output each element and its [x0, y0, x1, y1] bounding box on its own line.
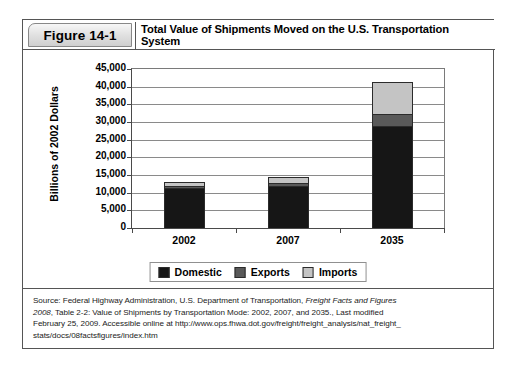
y-axis-title: Billions of 2002 Dollars [48, 69, 60, 219]
x-axis-label-2002: 2002 [149, 234, 219, 246]
legend-label-exports: Exports [251, 266, 290, 278]
figure-title: Total Value of Shipments Moved on the U.… [141, 23, 491, 47]
legend-label-domestic: Domestic [175, 266, 222, 278]
header-divider [135, 22, 136, 49]
bar-segment-domestic [268, 186, 309, 228]
legend-swatch-exports [235, 267, 246, 278]
bar-2007 [268, 177, 309, 228]
plot-area: 45,00040,00035,00030,00025,00020,00015,0… [131, 68, 445, 229]
source-line3: February 25, 2009. Accessible online at … [33, 319, 401, 328]
bar-segment-domestic [372, 126, 413, 228]
source-line1-prefix: Source: Federal Highway Administration, … [33, 296, 305, 305]
x-axis-label-2035: 2035 [357, 234, 427, 246]
legend-label-imports: Imports [319, 266, 358, 278]
y-axis-tick-label: 40,000 [72, 80, 132, 91]
legend-item-domestic[interactable]: Domestic [159, 266, 222, 278]
source-note-text: Source: Federal Highway Administration, … [33, 295, 483, 341]
figure-number-tag: Figure 14-1 [28, 23, 132, 47]
y-axis-tick-label: 10,000 [72, 186, 132, 197]
y-axis-tick-label: 35,000 [72, 97, 132, 108]
x-axis-tick [132, 228, 133, 233]
x-axis-tick [340, 228, 341, 233]
figure-header: Figure 14-1 Total Value of Shipments Mov… [23, 20, 495, 50]
chart-area: Billions of 2002 Dollars 45,00040,00035,… [23, 50, 493, 290]
figure-title-label: Total Value of Shipments Moved on the U.… [141, 23, 491, 47]
bar-segment-domestic [164, 188, 205, 228]
source-line4: stats/docs/08factsfigures/index.htm [33, 331, 158, 340]
y-axis-tick-label: 45,000 [72, 62, 132, 73]
bar-segment-imports [372, 82, 413, 114]
bar-2035 [372, 82, 413, 228]
chart-legend: DomesticExportsImports [150, 262, 367, 282]
bar-2002 [164, 182, 205, 228]
legend-item-imports[interactable]: Imports [303, 266, 358, 278]
x-axis-label-2007: 2007 [253, 234, 323, 246]
source-line2-rest: , Table 2-2: Value of Shipments by Trans… [51, 308, 384, 317]
bar-segment-exports [372, 114, 413, 126]
source-line2-italic: 2008 [33, 308, 51, 317]
y-axis-tick-label: 0 [72, 221, 132, 232]
source-line1-italic: Freight Facts and Figures [305, 296, 396, 305]
figure-container: Figure 14-1 Total Value of Shipments Mov… [22, 19, 494, 349]
y-axis-tick-label: 20,000 [72, 150, 132, 161]
legend-swatch-imports [303, 267, 314, 278]
x-axis-tick [444, 228, 445, 233]
y-axis-tick-label: 5,000 [72, 203, 132, 214]
source-note-box: Source: Federal Highway Administration, … [23, 288, 493, 348]
legend-item-exports[interactable]: Exports [235, 266, 290, 278]
legend-swatch-domestic [159, 267, 170, 278]
y-axis-tick-label: 25,000 [72, 133, 132, 144]
x-axis-tick [236, 228, 237, 233]
figure-number-label: Figure 14-1 [43, 28, 116, 43]
y-axis-tick-label: 15,000 [72, 168, 132, 179]
y-axis-tick-label: 30,000 [72, 115, 132, 126]
